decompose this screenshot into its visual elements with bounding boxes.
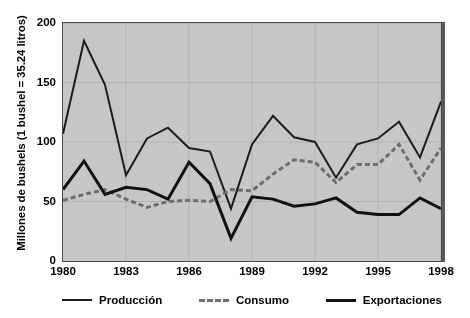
y-tick-label: 50 xyxy=(22,196,56,207)
plot-area xyxy=(62,22,442,262)
legend-swatch-icon xyxy=(62,299,92,301)
legend-item[interactable]: Consumo xyxy=(199,294,289,306)
y-tick-label: 100 xyxy=(22,136,56,147)
legend-label: Exportaciones xyxy=(363,294,442,306)
legend-swatch-icon xyxy=(326,299,356,302)
legend-item[interactable]: Producción xyxy=(62,294,162,306)
y-axis-title: Millones de bushels (1 bushel = 35.24 li… xyxy=(10,2,32,264)
legend-swatch-icon xyxy=(199,299,229,302)
x-tick-label: 1989 xyxy=(229,265,275,277)
legend-item[interactable]: Exportaciones xyxy=(326,294,442,306)
x-tick-label: 1998 xyxy=(418,265,464,277)
y-tick-label: 200 xyxy=(22,17,56,28)
x-tick-label: 1980 xyxy=(40,265,86,277)
x-tick-label: 1986 xyxy=(166,265,212,277)
chart-legend: ProducciónConsumoExportaciones xyxy=(62,290,448,310)
x-tick-label: 1983 xyxy=(103,265,149,277)
x-tick-label: 1992 xyxy=(292,265,338,277)
y-tick-label: 150 xyxy=(22,77,56,88)
legend-label: Consumo xyxy=(236,294,289,306)
x-tick-label: 1995 xyxy=(355,265,401,277)
line-chart: Millones de bushels (1 bushel = 35.24 li… xyxy=(0,0,470,318)
legend-label: Producción xyxy=(99,294,162,306)
plot-lines xyxy=(63,23,441,261)
